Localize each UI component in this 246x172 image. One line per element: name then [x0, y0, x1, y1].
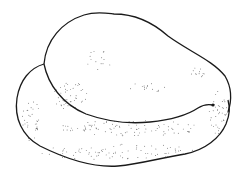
- crease-tip: [211, 103, 214, 106]
- stone-drawing: [0, 0, 246, 172]
- illustration-canvas: [0, 0, 246, 172]
- crease-line: [44, 64, 213, 123]
- stipple-shading: [22, 51, 228, 160]
- upper-lobe-outline: [44, 13, 231, 112]
- lower-lobe-outline: [16, 64, 229, 166]
